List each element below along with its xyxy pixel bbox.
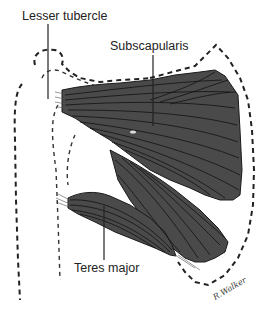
label-subscapularis: Subscapularis: [110, 39, 189, 53]
anatomy-illustration: Lesser tubercle Subscapularis Teres majo…: [0, 0, 271, 319]
humerus-shaft-left: [15, 84, 22, 300]
label-lesser-tubercle: Lesser tubercle: [22, 9, 108, 23]
label-teres-major: Teres major: [74, 261, 139, 275]
humerus-head-outline: [34, 50, 150, 82]
inner-curve: [67, 135, 75, 185]
humerus-shaft-right: [53, 105, 61, 280]
artist-signature: R.Walker: [211, 275, 249, 302]
muscle-highlight: [130, 130, 136, 133]
